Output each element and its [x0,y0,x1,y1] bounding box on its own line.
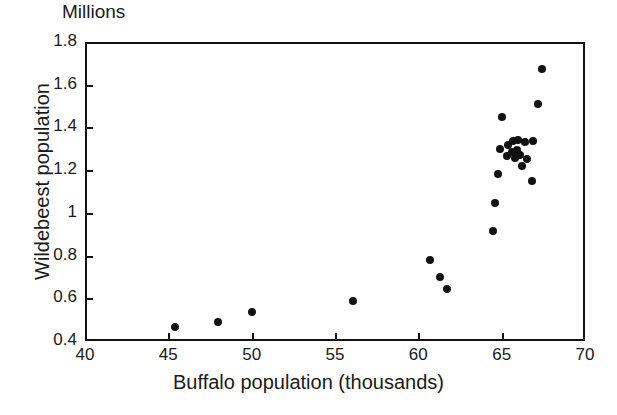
x-axis-title: Buffalo population (thousands) [0,371,617,394]
x-axis-tick-label: 50 [222,345,282,365]
y-axis-tick [85,256,93,258]
x-axis-tick-label: 65 [472,345,532,365]
y-axis-tick [85,127,93,129]
scatter-chart-figure: Millions 0.40.60.811.21.41.61.8 40455055… [0,0,617,415]
x-axis-tick-label: 60 [388,345,448,365]
x-axis-tick-label: 45 [138,345,198,365]
x-axis-tick-label: 55 [305,345,365,365]
x-axis-tick [252,333,254,341]
x-axis-tick [502,333,504,341]
x-axis-tick-label: 70 [555,345,615,365]
y-axis-title: Wildebeest population [31,32,54,332]
x-axis-tick [168,333,170,341]
y-axis-tick [85,213,93,215]
y-axis-tick [85,170,93,172]
x-axis-tick-label: 40 [55,345,115,365]
y-axis-tick [85,298,93,300]
y-axis-tick [85,85,93,87]
x-axis-tick [418,333,420,341]
x-axis-tick [335,333,337,341]
